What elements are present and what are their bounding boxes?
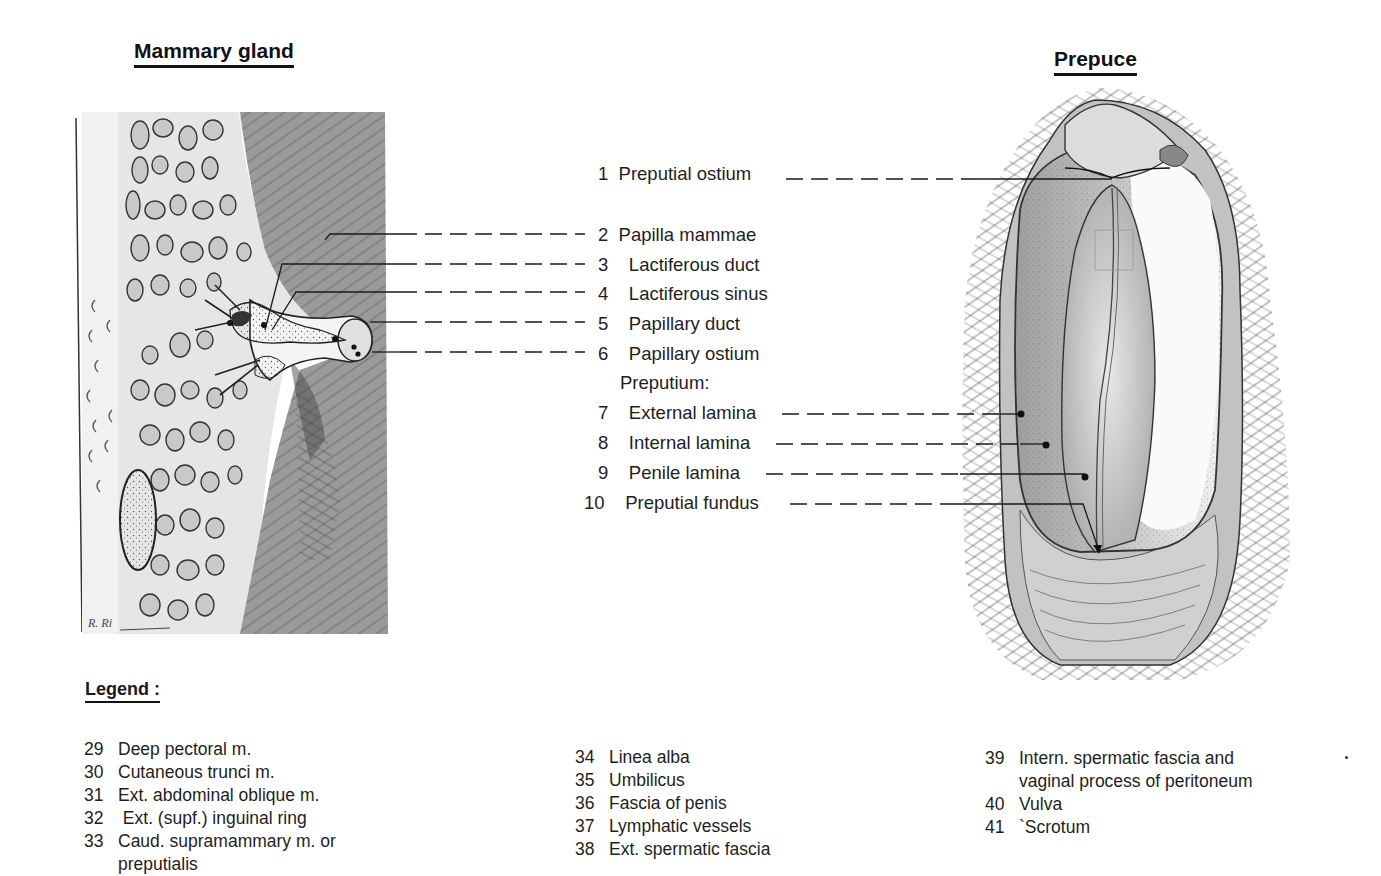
legend-item: 34Linea alba bbox=[575, 746, 770, 769]
label-preputial-fundus: 10 Preputial fundus bbox=[584, 492, 759, 514]
label-preputium-heading: Preputium: bbox=[620, 372, 709, 394]
legend-item-continuation: vaginal process of peritoneum bbox=[985, 770, 1252, 793]
prepuce-illustration bbox=[963, 88, 1291, 680]
legend-item: 31Ext. abdominal oblique m. bbox=[84, 784, 336, 807]
legend-item: 35Umbilicus bbox=[575, 769, 770, 792]
legend-item: 41`Scrotum bbox=[985, 816, 1252, 839]
label-papilla-mammae: 2 Papilla mammae bbox=[598, 224, 756, 246]
mammary-gland-illustration: R. Ri bbox=[76, 112, 388, 634]
legend-item: 30Cutaneous trunci m. bbox=[84, 761, 336, 784]
label-external-lamina: 7 External lamina bbox=[598, 402, 756, 424]
label-penile-lamina: 9 Penile lamina bbox=[598, 462, 740, 484]
label-lactiferous-sinus: 4 Lactiferous sinus bbox=[598, 283, 768, 305]
legend-title: Legend : bbox=[85, 678, 160, 703]
legend-item: 38Ext. spermatic fascia bbox=[575, 838, 770, 861]
legend-item: 36Fascia of penis bbox=[575, 792, 770, 815]
label-preputial-ostium: 1 Preputial ostium bbox=[598, 163, 751, 185]
label-internal-lamina: 8 Internal lamina bbox=[598, 432, 750, 454]
label-papillary-duct: 5 Papillary duct bbox=[598, 313, 740, 335]
legend-column-1: 29Deep pectoral m. 30Cutaneous trunci m.… bbox=[84, 738, 336, 876]
mammary-dashed-leaders bbox=[400, 234, 585, 352]
legend-item: 39Intern. spermatic fascia and bbox=[985, 747, 1252, 770]
svg-text:R. Ri: R. Ri bbox=[87, 616, 112, 630]
legend-item-continuation: preputialis bbox=[84, 853, 336, 876]
legend-item: 40Vulva bbox=[985, 793, 1252, 816]
legend-item: 37Lymphatic vessels bbox=[575, 815, 770, 838]
legend-column-3: 39Intern. spermatic fascia and vaginal p… bbox=[985, 747, 1252, 839]
legend-item: 29Deep pectoral m. bbox=[84, 738, 336, 761]
legend-item: 32 Ext. (supf.) inguinal ring bbox=[84, 807, 336, 830]
legend-column-2: 34Linea alba 35Umbilicus 36Fascia of pen… bbox=[575, 746, 770, 861]
label-lactiferous-duct: 3 Lactiferous duct bbox=[598, 254, 759, 276]
label-papillary-ostium: 6 Papillary ostium bbox=[598, 343, 759, 365]
legend-item: 33Caud. supramammary m. or bbox=[84, 830, 336, 853]
stray-mark bbox=[1345, 756, 1348, 759]
